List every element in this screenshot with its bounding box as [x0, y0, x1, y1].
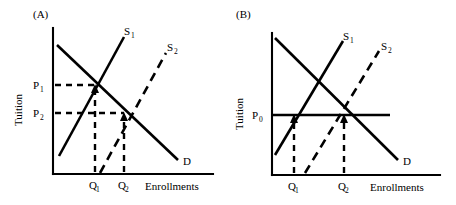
- panel-b-supply-curve-s2: [305, 51, 379, 173]
- panel-b-p0-label-sub: 0: [259, 115, 263, 124]
- panel-b-q1-label-sub: 1: [295, 186, 299, 195]
- supply-demand-figure: (A) S 1 S 2 D P 1 P 2: [0, 0, 456, 205]
- panel-b-d-label: D: [403, 155, 411, 167]
- panel-b-s2-label: S: [381, 40, 387, 52]
- panel-b-supply-curve-s1: [275, 41, 343, 155]
- panel-b-label: (B): [236, 8, 251, 21]
- panel-b-p0-label: P: [252, 109, 258, 121]
- panel-b-q2-label-sub: 2: [345, 186, 349, 195]
- panel-b-y-axis-label: Tuition: [233, 97, 245, 130]
- panel-b-s1-label: S: [343, 30, 349, 42]
- panel-b-x-axis-label: Enrollments: [370, 181, 424, 193]
- panel-b-s2-label-sub: 2: [388, 46, 392, 55]
- panel-b: (B) S 1 S 2 D P 0 Q 1: [0, 0, 456, 205]
- panel-b-demand-curve: [275, 38, 398, 160]
- panel-b-s1-label-sub: 1: [350, 36, 354, 45]
